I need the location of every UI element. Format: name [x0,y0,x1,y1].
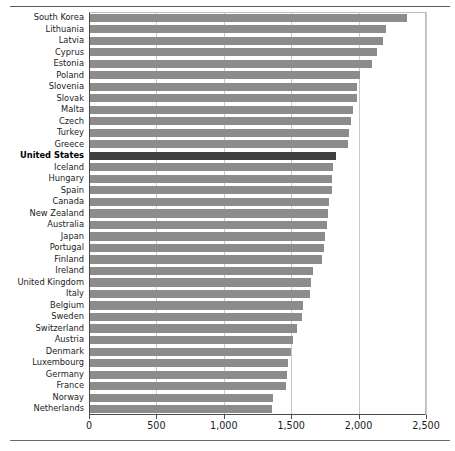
bar-ireland[interactable] [89,267,313,275]
bar-row-lithuania [89,24,426,36]
category-label-sweden: Sweden [51,311,84,323]
bar-row-canada [89,196,426,208]
category-label-japan: Japan [61,231,84,243]
bar-row-estonia [89,58,426,70]
category-label-greece: Greece [54,139,84,151]
bar-japan[interactable] [89,232,325,240]
bar-turkey[interactable] [89,129,349,137]
bar-france[interactable] [89,382,286,390]
bar-cyprus[interactable] [89,48,377,56]
category-label-estonia: Estonia [53,58,84,70]
category-label-latvia: Latvia [59,35,84,47]
category-label-south-korea: South Korea [34,12,84,24]
bar-portugal[interactable] [89,244,324,252]
category-label-iceland: Iceland [54,162,84,174]
bar-italy[interactable] [89,290,310,298]
bar-lithuania[interactable] [89,25,386,33]
bar-row-iceland [89,162,426,174]
tick-label-0: 0 [86,420,92,431]
bar-row-denmark [89,346,426,358]
category-label-cyprus: Cyprus [55,47,84,59]
bar-estonia[interactable] [89,60,372,68]
category-label-united-kingdom: United Kingdom [17,277,84,289]
tick-label-1000: 1,000 [210,420,237,431]
bar-new-zealand[interactable] [89,209,328,217]
category-label-austria: Austria [55,334,84,346]
bar-row-norway [89,392,426,404]
category-label-finland: Finland [54,254,84,266]
category-label-luxembourg: Luxembourg [32,357,84,369]
category-label-lithuania: Lithuania [46,24,84,36]
bar-sweden[interactable] [89,313,302,321]
category-label-slovenia: Slovenia [49,81,84,93]
category-label-czech: Czech [59,116,84,128]
tickmark-2000 [359,415,360,419]
bar-hungary[interactable] [89,175,332,183]
bar-australia[interactable] [89,221,327,229]
bar-row-united-kingdom [89,277,426,289]
bar-row-portugal [89,242,426,254]
bar-row-greece [89,139,426,151]
bar-finland[interactable] [89,255,322,263]
category-label-canada: Canada [52,196,84,208]
bar-row-austria [89,334,426,346]
tickmark-1500 [291,415,292,419]
category-label-belgium: Belgium [50,300,84,312]
bar-germany[interactable] [89,371,287,379]
bar-row-switzerland [89,323,426,335]
category-label-portugal: Portugal [50,242,84,254]
tick-label-500: 500 [147,420,165,431]
category-label-france: France [56,380,84,392]
tick-label-2500: 2,500 [412,420,439,431]
bar-latvia[interactable] [89,37,383,45]
bar-row-slovenia [89,81,426,93]
bar-austria[interactable] [89,336,293,344]
category-label-norway: Norway [53,392,84,404]
bar-spain[interactable] [89,186,332,194]
bar-row-poland [89,70,426,82]
category-label-hungary: Hungary [49,173,84,185]
bar-row-cyprus [89,47,426,59]
bar-row-australia [89,219,426,231]
bar-row-sweden [89,311,426,323]
tickmark-1000 [224,415,225,419]
bar-belgium[interactable] [89,301,303,309]
bar-row-ireland [89,265,426,277]
bar-greece[interactable] [89,140,348,148]
bar-slovak[interactable] [89,94,357,102]
category-label-turkey: Turkey [57,127,84,139]
bar-denmark[interactable] [89,348,291,356]
bar-poland[interactable] [89,71,360,79]
bar-united-kingdom[interactable] [89,278,311,286]
bar-switzerland[interactable] [89,324,297,332]
category-label-new-zealand: New Zealand [29,208,84,220]
bar-row-belgium [89,300,426,312]
category-label-slovak: Slovak [57,93,84,105]
tickmark-2500 [426,415,427,419]
bar-row-new-zealand [89,208,426,220]
bar-south-korea[interactable] [89,14,407,22]
bar-row-slovak [89,93,426,105]
top-rule [10,6,450,7]
bar-iceland[interactable] [89,163,333,171]
category-label-poland: Poland [56,70,84,82]
bar-norway[interactable] [89,394,273,402]
bar-malta[interactable] [89,106,353,114]
bar-row-germany [89,369,426,381]
category-label-spain: Spain [61,185,84,197]
bar-united-states[interactable] [89,152,336,160]
category-label-switzerland: Switzerland [36,323,84,335]
value-axis-ticks: 05001,0001,5002,0002,500 [89,415,426,441]
tickmark-500 [156,415,157,419]
bar-row-japan [89,231,426,243]
bar-series [89,12,426,415]
category-label-italy: Italy [66,288,84,300]
bar-netherlands[interactable] [89,405,272,413]
category-label-australia: Australia [47,219,84,231]
bar-canada[interactable] [89,198,329,206]
bar-slovenia[interactable] [89,83,357,91]
category-label-denmark: Denmark [46,346,84,358]
category-label-ireland: Ireland [55,265,84,277]
bar-czech[interactable] [89,117,351,125]
bar-luxembourg[interactable] [89,359,288,367]
